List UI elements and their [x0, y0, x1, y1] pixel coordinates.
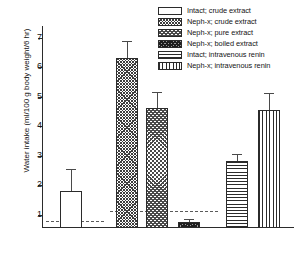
y-axis-tick-label: 6: [16, 61, 42, 71]
error-bar-cap: [264, 93, 274, 94]
y-axis-line: [42, 26, 43, 228]
legend-item-label: Intact; crude extract: [187, 7, 251, 15]
bar-5: [226, 161, 248, 228]
bar-6: [258, 110, 280, 228]
error-bar-stem: [269, 93, 270, 110]
bar-2: [116, 58, 138, 228]
y-axis-tick-label: 5: [16, 91, 42, 101]
plot-area: 1234567: [42, 26, 294, 228]
legend-item-label: Neph-x; crude extract: [187, 18, 257, 26]
error-bar-cap: [122, 41, 132, 42]
y-axis-tick-label: 3: [16, 150, 42, 160]
y-axis-tick-label: 1: [16, 209, 42, 219]
y-axis-tick-label: 2: [16, 179, 42, 189]
legend-swatch-crossdot-icon: [158, 18, 182, 26]
legend-swatch-open-icon: [158, 7, 182, 15]
error-bar-cap: [152, 92, 162, 93]
error-bar-cap: [66, 169, 76, 170]
bar-3: [146, 108, 168, 228]
legend-item: Intact; crude extract: [158, 6, 302, 16]
error-bar-cap: [232, 154, 242, 155]
chart-figure: Intact; crude extract Neph-x; crude extr…: [0, 0, 306, 253]
bar-4: [178, 222, 200, 228]
y-axis-tick-label: 4: [16, 120, 42, 130]
error-bar-stem: [127, 41, 128, 58]
y-axis-tick-label: 7: [16, 32, 42, 42]
error-bar-stem: [237, 154, 238, 161]
error-bar-stem: [71, 169, 72, 190]
error-bar-stem: [157, 92, 158, 108]
error-bar-cap: [184, 219, 194, 220]
bar-1: [60, 191, 82, 228]
